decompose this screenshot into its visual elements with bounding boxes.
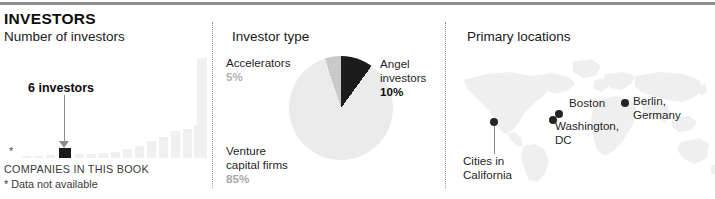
chart-footnote: * Data not available xyxy=(4,178,98,190)
bar-item xyxy=(111,152,120,158)
chart-axis-caption: COMPANIES IN THIS BOOK xyxy=(4,163,149,175)
panel-title-number-of-investors: Number of investors xyxy=(4,29,125,44)
map-dot-cities-in-california[interactable] xyxy=(490,118,498,126)
map-label-cities-in-california: Cities in California xyxy=(463,154,512,182)
pie-label-venture-line2: capital firms xyxy=(226,158,288,171)
infographic-root: INVESTORS Number of investors * 6 invest… xyxy=(0,0,715,199)
map-label-boston: Boston xyxy=(569,96,605,110)
pie-chart xyxy=(289,56,393,160)
bar-item xyxy=(123,149,132,158)
pie-slice-accelerators xyxy=(289,56,393,160)
map-label-boston-text: Boston xyxy=(569,96,605,109)
bar-item xyxy=(75,154,84,158)
bar-item xyxy=(159,137,168,158)
bar-item xyxy=(46,155,55,158)
panel-title-investor-type: Investor type xyxy=(232,29,309,44)
panel-title-primary-locations: Primary locations xyxy=(467,29,571,44)
pie-label-angel-line2: investors xyxy=(380,71,426,84)
callout-label: 6 investors xyxy=(28,81,94,95)
pie-value-venture-capital: 85% xyxy=(226,172,288,186)
map-label-washington-line2: DC xyxy=(555,133,572,146)
map-label-washington-line1: Washington, xyxy=(555,119,619,132)
map-label-washington-dc: Washington, DC xyxy=(555,119,619,147)
bar-item xyxy=(34,156,43,158)
callout-leader-line xyxy=(64,95,66,143)
pie-label-venture-capital: Venture capital firms 85% xyxy=(226,144,288,186)
bar-item-tallest xyxy=(197,58,207,158)
pie-label-venture-line1: Venture xyxy=(226,144,266,157)
panel-primary-locations: Primary locations xyxy=(445,0,715,199)
bar-item xyxy=(183,129,192,158)
bar-item xyxy=(22,156,31,158)
pie-label-angel-line1: Angel xyxy=(380,57,410,70)
map-dot-berlin-germany[interactable] xyxy=(621,99,629,107)
map-label-berlin-line2: Germany xyxy=(633,108,681,121)
map-label-california-line1: Cities in xyxy=(463,154,504,167)
panel-number-of-investors: Number of investors * 6 investors COMPAN… xyxy=(0,0,212,199)
map-leader-line-california xyxy=(494,126,495,154)
callout-arrow-icon xyxy=(59,141,69,148)
pie-label-accelerators: Accelerators 5% xyxy=(226,56,290,84)
bar-item-highlighted xyxy=(59,148,71,158)
pie-value-angel-investors: 10% xyxy=(380,85,426,99)
pie-label-accelerators-text: Accelerators xyxy=(226,56,290,69)
bar-chart: * xyxy=(4,55,204,158)
pie-value-accelerators: 5% xyxy=(226,70,290,84)
map-label-berlin-line1: Berlin, xyxy=(633,94,666,107)
bar-item xyxy=(99,153,108,158)
map-label-california-line2: California xyxy=(463,168,512,181)
map-label-berlin-germany: Berlin, Germany xyxy=(633,94,681,122)
bar-item xyxy=(147,141,156,158)
world-map: Cities in California Boston Washington, … xyxy=(445,46,715,186)
panel-investor-type: Investor type Accelerators 5% Angel inve… xyxy=(212,0,445,199)
no-data-asterisk: * xyxy=(9,147,13,155)
pie-label-angel-investors: Angel investors 10% xyxy=(380,57,426,99)
pie-slice-venture-capital xyxy=(289,56,393,160)
bar-item xyxy=(135,146,144,158)
bar-item xyxy=(171,131,180,158)
bar-item xyxy=(87,154,96,158)
